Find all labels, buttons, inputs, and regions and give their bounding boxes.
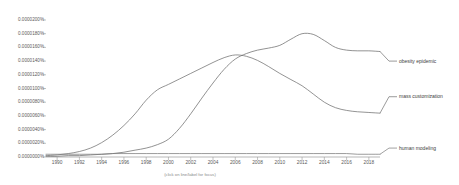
y-axis-tick-label: 0.0000080% [18, 100, 44, 105]
x-axis-tick-label: 2016 [341, 161, 352, 166]
y-axis-tick-label: 0.0000040% [18, 127, 44, 132]
series-lines[interactable] [46, 33, 380, 156]
series-line-human-modeling[interactable] [46, 154, 380, 155]
y-axis-tick-label: 0.0000160% [18, 45, 44, 50]
x-axis-tick-label: 1994 [96, 161, 107, 166]
series-label-mass-customization[interactable]: mass customization [399, 94, 443, 99]
x-axis-tick-label: 2008 [252, 161, 263, 166]
ngram-chart: 0.0000200%0.0000180%0.0000160%0.0000140%… [0, 0, 459, 185]
y-axis-tick-label: 0.0000000% [18, 155, 44, 160]
series-label-human-modeling[interactable]: human modeling [399, 146, 436, 151]
x-axis-tick-label: 1992 [74, 161, 85, 166]
x-axis-tick-label: 2000 [163, 161, 174, 166]
x-axis-tick-label: 2018 [364, 161, 375, 166]
x-axis-tick-label: 2002 [185, 161, 196, 166]
y-axis-tick-label: 0.0000120% [18, 73, 44, 78]
chart-caption: (click on line/label for focus) [0, 173, 380, 177]
x-axis-tick-labels: 1990199219941996199820002002200420062008… [0, 161, 459, 171]
y-axis-tick-label: 0.0000180% [18, 31, 44, 36]
series-label-obesity-epidemic[interactable]: obesity epidemic [399, 59, 436, 64]
x-axis-tick-label: 2004 [208, 161, 219, 166]
y-axis-tick-label: 0.0000140% [18, 59, 44, 64]
y-axis-tick-label: 0.0000020% [18, 141, 44, 146]
series-line-obesity-epidemic[interactable] [46, 33, 380, 156]
x-axis-tick-label: 2010 [274, 161, 285, 166]
y-axis-tick-labels: 0.0000200%0.0000180%0.0000160%0.0000140%… [0, 0, 44, 185]
y-axis-tick-label: 0.0000200% [18, 18, 44, 23]
x-axis-tick-label: 2012 [297, 161, 308, 166]
series-line-mass-customization[interactable] [46, 55, 380, 156]
legend-leader-lines [380, 52, 397, 155]
y-axis-tick-label: 0.0000060% [18, 114, 44, 119]
x-axis-tick-label: 1990 [52, 161, 63, 166]
y-axis-tick-label: 0.0000100% [18, 86, 44, 91]
x-axis-tick-label: 2014 [319, 161, 330, 166]
x-axis-tick-label: 2006 [230, 161, 241, 166]
x-axis-tick-label: 1996 [119, 161, 130, 166]
axis-tick-marks [43, 20, 369, 160]
x-axis-tick-label: 1998 [141, 161, 152, 166]
chart-plot-area[interactable] [0, 0, 459, 185]
